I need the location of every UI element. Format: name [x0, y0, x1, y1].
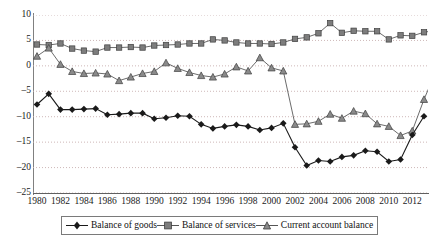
triangle-data-point [327, 111, 334, 118]
square-data-point [34, 42, 39, 47]
plot-area [33, 15, 428, 193]
square-data-point [410, 33, 415, 38]
x-axis-tick-labels: 1980198219841986198819901992199419961998… [33, 197, 429, 211]
x-axis-tick-label: 1998 [239, 197, 258, 207]
legend-item-current-account-balance[interactable]: Current account balance [256, 220, 373, 231]
diamond-data-point [81, 106, 88, 113]
chart-legend: Balance of goods Balance of services Cur… [61, 216, 378, 235]
x-axis-tick-label: 1984 [74, 197, 93, 207]
y-axis-tick-labels: 1050–5–10–15–20–25 [0, 0, 31, 243]
diamond-data-point [163, 114, 170, 121]
square-marker-icon [157, 220, 179, 231]
x-axis-tick-label: 2004 [309, 197, 328, 207]
triangle-data-point [256, 54, 263, 61]
triangle-data-point [350, 108, 357, 115]
square-data-point [257, 41, 262, 46]
square-data-point [69, 46, 74, 51]
y-axis-tick-label: 0 [3, 61, 31, 71]
triangle-data-point [233, 63, 240, 70]
legend-label: Current account balance [281, 221, 373, 231]
square-data-point [187, 41, 192, 46]
square-data-point [398, 33, 403, 38]
diamond-data-point [198, 121, 205, 128]
x-axis-tick-label: 1992 [168, 197, 187, 207]
diamond-data-point [210, 125, 217, 132]
diamond-data-point [174, 112, 181, 119]
chart-container: 1050–5–10–15–20–25 198019821984198619881… [0, 0, 437, 243]
diamond-data-point [268, 125, 275, 132]
square-data-point [269, 41, 274, 46]
diamond-data-point [128, 110, 135, 117]
legend-label: Balance of goods [91, 221, 157, 231]
square-data-point [105, 45, 110, 50]
triangle-data-point [151, 68, 158, 75]
square-data-point [292, 36, 297, 41]
square-data-point [421, 30, 426, 35]
square-data-point [386, 37, 391, 42]
y-axis-tick-label: –5 [3, 86, 31, 96]
square-data-point [81, 48, 86, 53]
square-data-point [128, 44, 133, 49]
square-data-point [198, 41, 203, 46]
series-line-triangle [37, 48, 428, 135]
diamond-data-point [69, 106, 76, 113]
square-data-point [281, 40, 286, 45]
y-axis-tick-label: –10 [3, 112, 31, 122]
triangle-data-point [420, 96, 427, 103]
square-data-point [152, 43, 157, 48]
diamond-data-point [315, 157, 322, 164]
diamond-data-point [339, 154, 346, 161]
triangle-data-point [69, 68, 76, 75]
x-axis-tick-label: 2012 [403, 197, 422, 207]
diamond-data-point [116, 111, 123, 118]
square-data-point [58, 41, 63, 46]
square-data-point [351, 28, 356, 33]
x-axis-tick-label: 2002 [286, 197, 305, 207]
square-data-point [327, 20, 332, 25]
square-data-point [363, 29, 368, 34]
x-axis-line [33, 193, 429, 194]
y-axis-tick-label: 5 [3, 35, 31, 45]
triangle-data-point [127, 73, 134, 80]
square-data-point [163, 42, 168, 47]
square-data-point [210, 37, 215, 42]
x-axis-tick-label: 1980 [28, 197, 47, 207]
diamond-data-point [186, 113, 193, 120]
x-axis-tick-label: 1988 [121, 197, 140, 207]
square-data-point [140, 45, 145, 50]
triangle-data-point [162, 59, 169, 66]
x-axis-tick-label: 2000 [262, 197, 281, 207]
y-axis-tick-label: 10 [3, 10, 31, 20]
y-axis-tick-label: –15 [3, 137, 31, 147]
square-data-point [245, 41, 250, 46]
square-data-point [175, 42, 180, 47]
triangle-data-point [338, 115, 345, 122]
triangle-data-point [221, 70, 228, 77]
square-data-point [316, 31, 321, 36]
series-line-diamond [37, 94, 424, 166]
square-data-point [234, 40, 239, 45]
square-data-point [222, 38, 227, 43]
x-axis-tick-label: 2008 [356, 197, 375, 207]
triangle-data-point [57, 61, 64, 68]
legend-label: Balance of services [182, 221, 256, 231]
diamond-data-point [139, 110, 146, 117]
x-axis-tick-label: 1986 [98, 197, 117, 207]
triangle-data-point [397, 132, 404, 139]
triangle-data-point [186, 69, 193, 76]
y-axis-tick-label: –20 [3, 163, 31, 173]
triangle-data-point [115, 77, 122, 84]
diamond-data-point [421, 113, 428, 120]
legend-item-balance-of-goods[interactable]: Balance of goods [66, 220, 157, 231]
square-data-point [93, 49, 98, 54]
triangle-data-point [33, 53, 40, 60]
square-data-point [116, 45, 121, 50]
x-axis-tick-label: 1982 [51, 197, 70, 207]
diamond-marker-icon [66, 220, 88, 231]
series-line-square [37, 23, 428, 51]
x-axis-tick-label: 1994 [192, 197, 211, 207]
diamond-data-point [245, 123, 252, 130]
x-axis-tick-label: 1996 [215, 197, 234, 207]
diamond-data-point [362, 147, 369, 154]
legend-item-balance-of-services[interactable]: Balance of services [157, 220, 256, 231]
